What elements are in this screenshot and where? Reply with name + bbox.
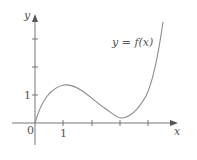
x-tick-label-1: 1 [60,127,67,140]
x-axis-label: x [174,125,181,138]
origin-label: 0 [27,124,34,137]
function-graph: y x 0 1 1 y = f(x) [0,0,197,160]
y-tick-label-1: 1 [24,89,31,102]
y-axis-label: y [23,9,31,22]
curve-label: y = f(x) [111,36,153,49]
y-axis-arrow-icon [32,14,38,22]
